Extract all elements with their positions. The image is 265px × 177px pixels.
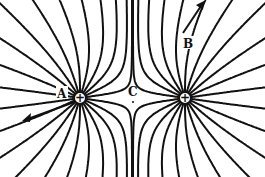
field-line [176, 105, 183, 177]
charge-right: + [179, 91, 191, 105]
field-line [0, 35, 75, 93]
field-line [191, 63, 265, 95]
field-line [30, 0, 78, 91]
field-line [86, 0, 127, 95]
field-line [138, 101, 179, 177]
arrow-b [183, 1, 204, 33]
field-line [187, 0, 235, 91]
point-c-dot [132, 101, 134, 103]
field-line [58, 0, 80, 91]
label-c: C [128, 85, 138, 99]
plus-sign-left: + [75, 91, 85, 105]
label-b: B [183, 37, 193, 51]
charge-left: + [74, 91, 86, 105]
field-line [191, 101, 265, 133]
field-line [85, 0, 116, 93]
label-a: A [56, 87, 67, 101]
field-line [190, 35, 265, 93]
field-line [86, 101, 127, 177]
field-line [148, 0, 179, 93]
field-line [81, 0, 89, 91]
field-line [138, 0, 179, 95]
plus-sign-right: + [180, 91, 190, 105]
field-line [0, 103, 75, 161]
field-line-diagram: + + A B C [0, 0, 265, 177]
field-line [192, 87, 265, 97]
field-line [82, 105, 89, 177]
field-line [192, 99, 265, 109]
field-line [190, 103, 265, 161]
